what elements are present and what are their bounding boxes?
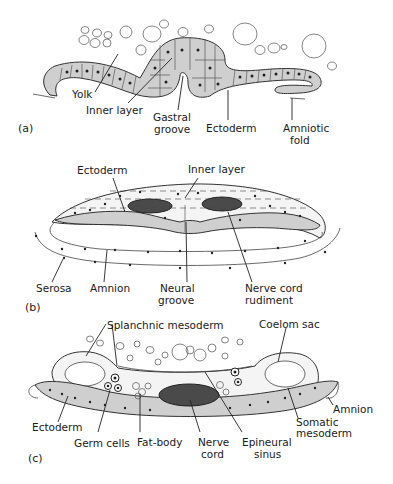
label-nerve-cord-rudiment-line2: rudiment [245, 294, 293, 306]
label-splanchnic-mesoderm: Splanchnic mesoderm [107, 319, 224, 331]
nerve-cord-rudiment-left [128, 199, 172, 213]
panel-b: Ectoderm Inner layer Serosa Amnion Neura… [25, 163, 340, 314]
label-neural-groove-line2: groove [158, 294, 194, 306]
label-ectoderm-c: Ectoderm [32, 421, 82, 433]
label-gastral-groove-line2: groove [154, 123, 190, 135]
embryo-development-diagram: Yolk Inner layer Gastral groove Ectoderm… [0, 0, 393, 484]
label-fat-body: Fat-body [137, 436, 182, 448]
label-amniotic-fold-line1: Amniotic [283, 122, 329, 134]
label-epineural-sinus-line1: Epineural [242, 436, 292, 448]
label-amnion-b: Amnion [90, 282, 130, 294]
leader-splanchnic-mesoderm-1 [86, 324, 106, 356]
coelom-sac-right [265, 361, 305, 387]
label-ectoderm-a: Ectoderm [206, 122, 256, 134]
label-amniotic-fold-line2: fold [290, 134, 310, 146]
panel-label-c: (c) [28, 452, 43, 465]
leader-serosa [52, 259, 63, 282]
label-inner-layer-a: Inner layer [86, 104, 144, 116]
label-inner-layer-b: Inner layer [188, 163, 246, 175]
panel-a: Yolk Inner layer Gastral groove Ectoderm… [18, 20, 337, 146]
leader-amnion-b [104, 250, 107, 282]
label-ectoderm-b: Ectoderm [77, 164, 127, 176]
label-germ-cells: Germ cells [74, 437, 130, 449]
label-nerve-cord-rudiment-line1: Nerve cord [245, 282, 303, 294]
panel-label-a: (a) [18, 122, 33, 135]
label-nerve-cord-line2: cord [201, 448, 224, 460]
label-gastral-groove-line1: Gastral [153, 111, 191, 123]
label-serosa: Serosa [36, 282, 72, 294]
label-epineural-sinus-line2: sinus [254, 448, 281, 460]
coelom-sac-left [65, 362, 105, 386]
nerve-cord [159, 384, 219, 406]
label-coelom-sac: Coelom sac [259, 318, 320, 330]
label-nerve-cord-line1: Nerve [198, 436, 229, 448]
label-somatic-mesoderm-line2: mesoderm [296, 427, 352, 439]
membrane-nuclei-b [35, 235, 326, 269]
label-yolk: Yolk [71, 88, 93, 100]
panel-c: Splanchnic mesoderm Coelom sac Amnion Ec… [28, 318, 373, 465]
label-neural-groove-line1: Neural [160, 282, 195, 294]
label-amnion-c: Amnion [333, 403, 373, 415]
panel-label-b: (b) [25, 301, 41, 314]
